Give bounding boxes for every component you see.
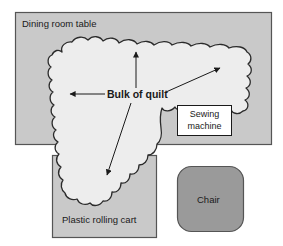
diagram-canvas: Dining room table Plastic rolling cart C… bbox=[0, 0, 283, 246]
label-sewing-machine-line2: machine bbox=[187, 121, 221, 131]
label-sewing-machine-line1: Sewing bbox=[190, 109, 220, 119]
floor-plan-diagram: Dining room table Plastic rolling cart C… bbox=[0, 0, 283, 246]
label-plastic-rolling-cart: Plastic rolling cart bbox=[62, 214, 137, 225]
label-dining-room-table: Dining room table bbox=[22, 18, 96, 29]
label-bulk-of-quilt: Bulk of quilt bbox=[107, 88, 168, 100]
label-chair: Chair bbox=[197, 194, 220, 205]
